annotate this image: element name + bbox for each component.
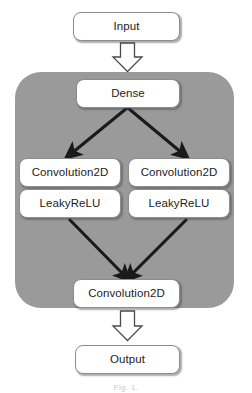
node-convolution2d-right: Convolution2D	[128, 158, 230, 187]
architecture-diagram: Input Dense Convolution2D LeakyReLU Conv…	[0, 0, 252, 393]
node-dense-label: Dense	[111, 88, 145, 100]
node-leakyrelu-left: LeakyReLU	[19, 189, 121, 218]
node-convolution2d-left-label: Convolution2D	[32, 167, 109, 179]
node-leakyrelu-right-label: LeakyReLU	[149, 198, 210, 210]
hollow-arrow-conv-bottom-to-output	[113, 311, 142, 341]
figure-caption: Fig. 1.	[0, 383, 252, 392]
node-dense: Dense	[76, 79, 180, 108]
node-leakyrelu-left-label: LeakyReLU	[40, 198, 101, 210]
node-input: Input	[73, 12, 180, 41]
node-convolution2d-bottom-label: Convolution2D	[88, 288, 165, 300]
node-input-label: Input	[113, 21, 139, 33]
node-convolution2d-right-label: Convolution2D	[141, 167, 218, 179]
node-leakyrelu-right: LeakyReLU	[128, 189, 230, 218]
node-output: Output	[75, 345, 180, 374]
node-output-label: Output	[110, 354, 145, 366]
node-convolution2d-bottom: Convolution2D	[73, 279, 180, 308]
node-convolution2d-left: Convolution2D	[19, 158, 121, 187]
hollow-arrow-input-to-dense	[113, 43, 142, 72]
